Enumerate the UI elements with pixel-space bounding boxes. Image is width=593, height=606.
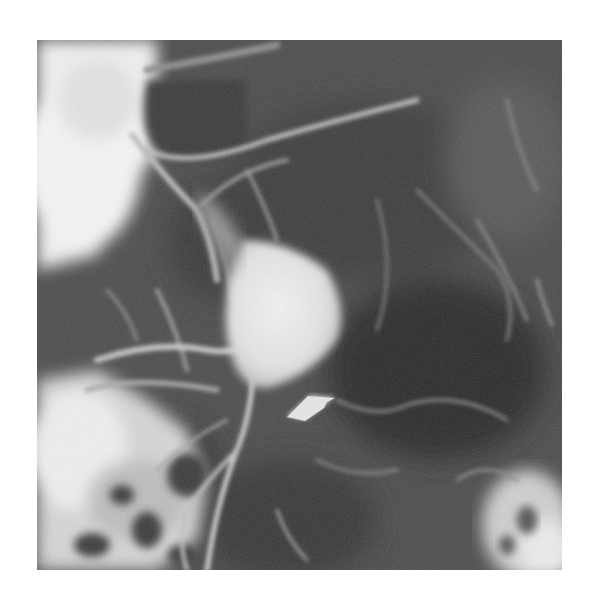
radiograph-image: [37, 40, 562, 570]
radiograph-figure: [37, 40, 562, 570]
